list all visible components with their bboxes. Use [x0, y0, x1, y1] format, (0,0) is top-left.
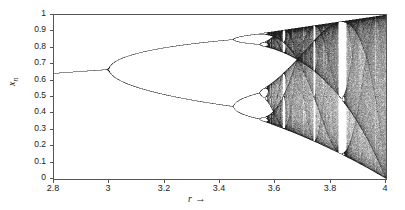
y-tick-label-text: 0.6: [12, 75, 46, 84]
x-tick-label: 3.8: [310, 184, 350, 196]
y-tick-label: 0: [12, 173, 46, 183]
y-tick-label-text: 0.3: [12, 124, 46, 133]
x-tick-label-text: 4: [365, 184, 405, 193]
y-tick-label-text: 0.4: [12, 107, 46, 116]
y-tick-label: 0.9: [12, 25, 46, 35]
y-tick-label: 0.1: [12, 157, 46, 167]
y-tick-label-text: 0.5: [12, 91, 46, 100]
y-tick-label: 1: [12, 9, 46, 19]
x-tick-label-text: 3.2: [144, 184, 184, 193]
x-tick-label-text: 3.8: [310, 184, 350, 193]
right-arrow-icon: →: [192, 192, 206, 204]
plot-area: [53, 14, 387, 180]
y-tick-label: 0.8: [12, 42, 46, 52]
x-tick-label-text: 2.8: [33, 184, 73, 193]
y-tick-label-text: 0.8: [12, 42, 46, 51]
y-tick-label-text: 0.2: [12, 140, 46, 149]
y-tick-label-text: 0: [12, 173, 46, 182]
x-tick-label: 4: [365, 184, 405, 196]
bifurcation-figure: xn 00.10.20.30.40.50.60.70.80.91 2.833.2…: [0, 0, 405, 210]
y-tick-label: 0.3: [12, 124, 46, 134]
y-tick-label: 0.4: [12, 107, 46, 117]
x-tick-label: 3: [88, 184, 128, 196]
bifurcation-plot-canvas: [54, 15, 386, 179]
y-tick-label-text: 0.1: [12, 157, 46, 166]
x-tick-label: 3.6: [254, 184, 294, 196]
y-tick-label: 0.2: [12, 140, 46, 150]
x-tick-label-text: 3.6: [254, 184, 294, 193]
y-tick-label: 0.6: [12, 75, 46, 85]
y-tick-label-text: 0.7: [12, 58, 46, 67]
x-tick-label-text: 3: [88, 184, 128, 193]
x-tick-label: 2.8: [33, 184, 73, 196]
x-axis-label: r→: [188, 192, 206, 204]
x-tick-label: 3.2: [144, 184, 184, 196]
y-tick-label-text: 1: [12, 9, 46, 18]
y-tick-label-text: 0.9: [12, 25, 46, 34]
y-tick-label: 0.5: [12, 91, 46, 101]
y-tick-label: 0.7: [12, 58, 46, 68]
